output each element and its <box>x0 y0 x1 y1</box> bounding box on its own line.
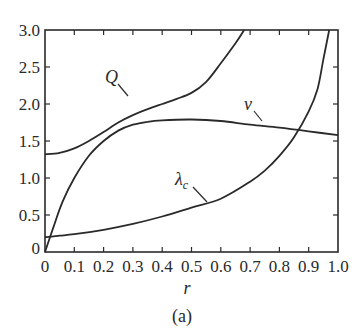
x-tick-label: 0.9 <box>298 257 319 276</box>
curve-Q <box>45 30 244 154</box>
x-tick-label: 0.2 <box>93 257 114 276</box>
x-tick-label: 0.3 <box>122 257 143 276</box>
lambda-curve-label: λc <box>174 169 189 192</box>
x-tick-label: 0.1 <box>64 257 85 276</box>
q-curve-label: Q <box>105 67 118 87</box>
y-tick-label: 3.0 <box>19 21 40 40</box>
x-tick-label: 1.0 <box>327 257 348 276</box>
figure-caption: (a) <box>172 306 192 327</box>
y-tick-labels: 00.51.01.52.02.53.0 <box>19 21 40 258</box>
y-tick-label: 0.5 <box>19 206 40 225</box>
curve-lambda-c <box>45 30 329 237</box>
x-tick-label: 0.8 <box>269 257 290 276</box>
x-tick-label: 0 <box>41 257 50 276</box>
lambda-leader-line <box>193 187 207 202</box>
x-tick-label: 0.7 <box>239 257 261 276</box>
y-tick-label: 2.5 <box>19 58 40 77</box>
y-tick-label: 2.0 <box>19 95 40 114</box>
q-leader-line <box>118 84 128 96</box>
v-leader-line <box>254 111 262 121</box>
x-axis-label: r <box>183 278 191 298</box>
curves <box>45 30 338 252</box>
x-tick-label: 0.6 <box>210 257 231 276</box>
y-tick-label: 0 <box>32 239 41 258</box>
v-curve-label: v <box>244 94 252 114</box>
x-tick-label: 0.4 <box>152 257 174 276</box>
y-tick-label: 1.0 <box>19 169 40 188</box>
x-tick-labels: 00.10.20.30.40.50.60.70.80.91.0 <box>41 257 349 276</box>
chart: 00.10.20.30.40.50.60.70.80.91.0 00.51.01… <box>0 0 357 330</box>
x-tick-label: 0.5 <box>181 257 202 276</box>
y-tick-label: 1.5 <box>19 132 40 151</box>
